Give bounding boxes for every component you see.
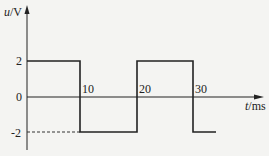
x-tick-30: 30 [195, 82, 207, 96]
square-wave-chart: u/V 2 0 -2 10 20 30 t/ms [0, 0, 269, 156]
x-axis-label: t/ms [245, 99, 266, 113]
y-tick-neg2: -2 [11, 126, 21, 140]
y-axis-arrow-icon [25, 5, 30, 14]
x-tick-20: 20 [139, 82, 151, 96]
y-tick-0: 0 [16, 90, 22, 104]
y-axis-label: u/V [4, 5, 22, 19]
x-tick-10: 10 [82, 82, 94, 96]
y-tick-2: 2 [16, 54, 22, 68]
